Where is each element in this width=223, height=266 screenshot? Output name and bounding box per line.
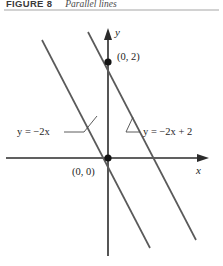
x-axis-arrowhead (197, 154, 209, 162)
leader-line-left (64, 116, 97, 132)
equation-label-left: y = −2x (17, 126, 51, 137)
figure-title: Parallel lines (65, 0, 116, 9)
y-axis-label: y (114, 26, 120, 38)
figure-number: FIGURE 8 (6, 0, 52, 9)
point-label-origin: (0, 0) (72, 166, 95, 178)
point-label-y-intercept: (0, 2) (117, 51, 140, 63)
coordinate-plot: y x y = −2x y = −2x + 2 (0, 2) (0, 0) (0, 11, 223, 266)
point-dot-y-intercept (104, 58, 111, 65)
y-axis-arrowhead (104, 28, 112, 40)
equation-label-right: y = −2x + 2 (143, 126, 192, 137)
point-dot-origin (104, 154, 111, 161)
x-axis-label: x (195, 164, 201, 176)
graph-line-y-eq-neg2x (42, 40, 150, 248)
figure-panel: FIGURE 8 Parallel lines y x y = −2x y = … (0, 0, 223, 266)
figure-caption: FIGURE 8 Parallel lines (0, 0, 223, 9)
figure-caption-inner: FIGURE 8 Parallel lines (6, 0, 117, 9)
